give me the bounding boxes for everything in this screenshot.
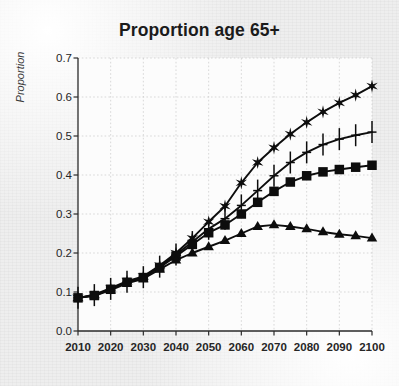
data-point-marker [367, 161, 377, 171]
data-point-marker [318, 167, 328, 177]
chart-figure: Proportion age 65+ Proportion 0.00.10.20… [0, 0, 399, 386]
data-point-marker [269, 187, 279, 197]
plot-area-background [78, 58, 372, 331]
data-point-marker [286, 177, 296, 187]
plot-canvas [0, 0, 399, 386]
data-point-marker [351, 162, 361, 172]
data-point-marker [335, 165, 345, 175]
data-point-marker [204, 228, 214, 238]
data-point-marker [253, 198, 263, 208]
data-point-marker [237, 209, 247, 219]
data-point-marker [302, 171, 312, 181]
data-point-marker [220, 220, 230, 230]
